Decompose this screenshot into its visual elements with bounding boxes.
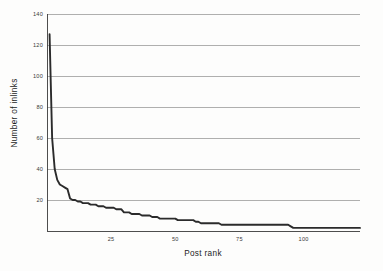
x-tick-label-100: 100 [299, 236, 309, 242]
y-tick-label-80: 80 [36, 104, 43, 110]
y-tick-label-40: 40 [36, 166, 43, 172]
x-tick-label-50: 50 [172, 236, 179, 242]
y-tick-label-120: 120 [33, 42, 43, 48]
y-tick-label-20: 20 [36, 197, 43, 203]
x-axis-title: Post rank [184, 249, 222, 258]
y-axis-title: Number of inlinks [10, 78, 19, 147]
x-tick-label-25: 25 [108, 236, 115, 242]
x-tick-label-75: 75 [236, 236, 243, 242]
cut-off-caption [0, 264, 383, 271]
inlinks-vs-post-rank-chart: 20406080100120140 255075100 Post rank Nu… [0, 0, 383, 271]
y-tick-label-60: 60 [36, 135, 43, 141]
figure-container: 20406080100120140 255075100 Post rank Nu… [0, 0, 383, 271]
y-tick-label-100: 100 [33, 73, 43, 79]
chart-background [0, 0, 383, 271]
y-tick-label-140: 140 [33, 11, 43, 17]
